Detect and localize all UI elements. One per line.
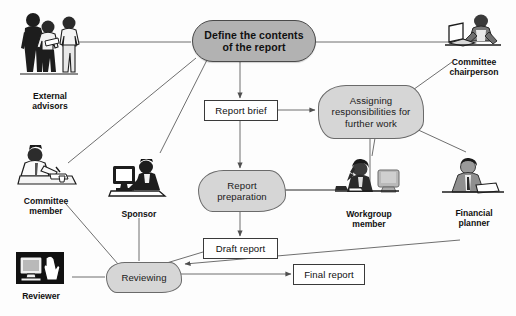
diagram-canvas: Define the contentsof the report Report …: [0, 0, 516, 316]
actor-reviewer[interactable]: Reviewer: [12, 252, 70, 302]
node-assigning-responsibilities[interactable]: Assigningresponsibilities forfurther wor…: [318, 85, 424, 139]
person-with-desktop-computer-icon: [108, 158, 170, 208]
wire-define-sponsor: [160, 58, 208, 153]
node-draft-report[interactable]: Draft report: [203, 238, 278, 259]
node-define-contents-label: Define the contentsof the report: [193, 29, 315, 54]
node-report-brief[interactable]: Report brief: [204, 100, 278, 121]
group-of-three-people-icon: [12, 8, 88, 90]
node-final-report[interactable]: Final report: [293, 264, 365, 285]
node-final-report-label: Final report: [294, 269, 364, 280]
actor-reviewer-label: Reviewer: [22, 292, 60, 302]
actor-sponsor[interactable]: Sponsor: [108, 158, 170, 220]
actor-external-advisors-label: Externaladvisors: [32, 92, 67, 112]
actor-sponsor-label: Sponsor: [122, 210, 157, 220]
node-report-preparation-label: Reportpreparation: [199, 180, 285, 203]
actor-committee-chairperson-label: Committeechairperson: [449, 58, 498, 78]
node-report-preparation[interactable]: Reportpreparation: [198, 170, 286, 212]
actor-committee-member[interactable]: Committeemember: [12, 143, 80, 217]
node-reviewing-label: Reviewing: [107, 272, 181, 283]
node-define-contents[interactable]: Define the contentsof the report: [192, 20, 316, 62]
wire-planner-assigning: [414, 128, 466, 152]
node-reviewing[interactable]: Reviewing: [106, 262, 182, 293]
monitor-with-hand-icon: [12, 252, 70, 290]
actor-committee-member-label: Committeemember: [24, 197, 68, 217]
actor-committee-chairperson[interactable]: Committeechairperson: [443, 12, 505, 78]
node-draft-report-label: Draft report: [204, 243, 277, 254]
node-report-brief-label: Report brief: [205, 105, 277, 116]
person-writing-at-desk-icon: [12, 143, 80, 195]
node-assigning-responsibilities-label: Assigningresponsibilities forfurther wor…: [319, 95, 423, 129]
person-at-desk-with-laptop-icon: [443, 12, 505, 56]
woman-on-phone-with-monitor-icon: [333, 158, 405, 208]
actor-financial-planner-label: Financialplanner: [455, 209, 492, 229]
man-in-suit-at-desk-icon: [440, 155, 508, 207]
actor-workgroup-member-label: Workgroupmember: [346, 210, 392, 230]
actor-external-advisors[interactable]: Externaladvisors: [12, 8, 88, 112]
wire-workgroup-assigning: [372, 138, 375, 156]
actor-workgroup-member[interactable]: Workgroupmember: [333, 158, 405, 230]
actor-financial-planner[interactable]: Financialplanner: [440, 155, 508, 229]
